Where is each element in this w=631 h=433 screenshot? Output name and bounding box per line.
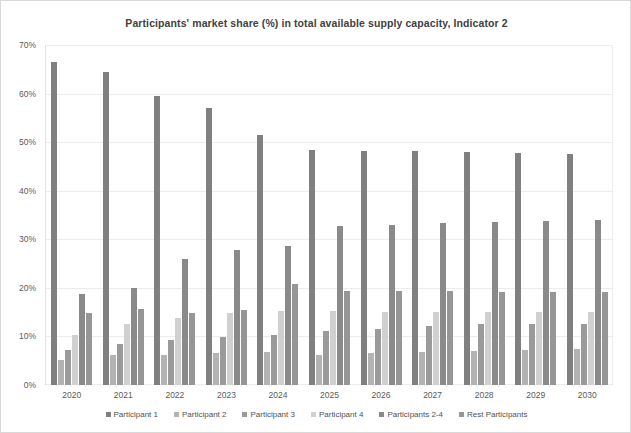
- bar[interactable]: [182, 259, 188, 385]
- bar[interactable]: [124, 324, 130, 385]
- bar[interactable]: [550, 292, 556, 385]
- bar[interactable]: [426, 326, 432, 385]
- bar[interactable]: [536, 312, 542, 385]
- legend-label: Participant 4: [319, 410, 363, 419]
- bar[interactable]: [278, 311, 284, 385]
- bar[interactable]: [485, 312, 491, 385]
- bar[interactable]: [206, 108, 212, 385]
- bar[interactable]: [588, 312, 594, 385]
- bar[interactable]: [389, 225, 395, 385]
- bar-group-2022: [149, 45, 201, 385]
- bar[interactable]: [602, 292, 608, 385]
- bar[interactable]: [375, 329, 381, 385]
- bar[interactable]: [499, 292, 505, 385]
- legend-label: Participants 2-4: [387, 410, 443, 419]
- bar[interactable]: [581, 324, 587, 385]
- legend-item[interactable]: Participant 4: [311, 410, 363, 419]
- bar[interactable]: [543, 221, 549, 385]
- bar[interactable]: [471, 351, 477, 385]
- bar[interactable]: [382, 312, 388, 385]
- bar[interactable]: [567, 154, 573, 385]
- bar[interactable]: [309, 150, 315, 385]
- x-axis-tick: 2029: [510, 390, 562, 400]
- bar[interactable]: [72, 335, 78, 385]
- bar[interactable]: [396, 291, 402, 385]
- legend-label: Participant 3: [250, 410, 294, 419]
- bar[interactable]: [65, 350, 71, 385]
- legend-swatch-icon: [242, 412, 247, 417]
- bar-group-2020: [46, 45, 98, 385]
- bar[interactable]: [595, 220, 601, 385]
- legend-swatch-icon: [379, 412, 384, 417]
- bar[interactable]: [447, 291, 453, 385]
- y-axis-tick: 30%: [19, 234, 36, 244]
- bar[interactable]: [79, 294, 85, 385]
- legend-swatch-icon: [174, 412, 179, 417]
- legend-item[interactable]: Participants 2-4: [379, 410, 443, 419]
- bar[interactable]: [220, 337, 226, 385]
- bar[interactable]: [492, 222, 498, 385]
- bar[interactable]: [189, 313, 195, 385]
- y-axis-tick: 10%: [19, 331, 36, 341]
- bar[interactable]: [330, 311, 336, 385]
- bar[interactable]: [227, 313, 233, 385]
- bar[interactable]: [292, 284, 298, 385]
- legend-label: Rest Participants: [467, 410, 527, 419]
- bar[interactable]: [213, 353, 219, 385]
- bar[interactable]: [51, 62, 57, 385]
- bar[interactable]: [131, 288, 137, 385]
- bar[interactable]: [337, 226, 343, 385]
- bar[interactable]: [86, 313, 92, 385]
- legend-item[interactable]: Rest Participants: [459, 410, 527, 419]
- x-axis-tick: 2024: [252, 390, 304, 400]
- bar-group-2021: [98, 45, 150, 385]
- bar[interactable]: [515, 153, 521, 385]
- legend-label: Participant 2: [182, 410, 226, 419]
- bar[interactable]: [154, 96, 160, 385]
- legend-item[interactable]: Participant 3: [242, 410, 294, 419]
- bar[interactable]: [241, 310, 247, 385]
- bar[interactable]: [316, 355, 322, 385]
- bar[interactable]: [574, 349, 580, 385]
- bar[interactable]: [368, 353, 374, 385]
- bar[interactable]: [478, 324, 484, 385]
- bar[interactable]: [138, 309, 144, 385]
- bar[interactable]: [110, 355, 116, 385]
- x-axis-tick: 2027: [407, 390, 459, 400]
- bar[interactable]: [285, 246, 291, 385]
- bar[interactable]: [433, 312, 439, 385]
- bar[interactable]: [412, 151, 418, 385]
- y-axis-tick: 20%: [19, 283, 36, 293]
- chart-title: Participants' market share (%) in total …: [1, 17, 631, 29]
- bar[interactable]: [323, 331, 329, 385]
- legend-item[interactable]: Participant 1: [106, 410, 158, 419]
- bar[interactable]: [344, 291, 350, 385]
- bar[interactable]: [264, 352, 270, 385]
- y-axis-tick: 70%: [19, 40, 36, 50]
- bar[interactable]: [161, 355, 167, 385]
- bar[interactable]: [529, 324, 535, 385]
- x-axis-labels: 2020202120222023202420252026202720282029…: [46, 390, 613, 400]
- bar[interactable]: [234, 250, 240, 385]
- bar[interactable]: [257, 135, 263, 385]
- bar-group-2024: [252, 45, 304, 385]
- bar[interactable]: [361, 151, 367, 385]
- bar[interactable]: [168, 340, 174, 385]
- bar-group-2025: [304, 45, 356, 385]
- bar[interactable]: [522, 350, 528, 385]
- bar[interactable]: [103, 72, 109, 385]
- bar-groups: [46, 45, 613, 385]
- bar-group-2030: [561, 45, 613, 385]
- bar[interactable]: [464, 152, 470, 385]
- y-axis-tick: 40%: [19, 186, 36, 196]
- bar[interactable]: [440, 223, 446, 385]
- bar[interactable]: [117, 344, 123, 385]
- legend-item[interactable]: Participant 2: [174, 410, 226, 419]
- legend-label: Participant 1: [114, 410, 158, 419]
- bar[interactable]: [58, 360, 64, 385]
- x-axis-tick: 2028: [458, 390, 510, 400]
- y-axis-tick: 0%: [24, 380, 36, 390]
- bar[interactable]: [271, 335, 277, 386]
- bar[interactable]: [419, 352, 425, 385]
- bar[interactable]: [175, 318, 181, 386]
